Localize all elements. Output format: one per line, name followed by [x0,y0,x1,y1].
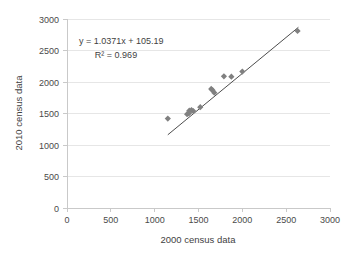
ytick-label-0: 0 [54,204,59,214]
xtick-label-500: 500 [103,215,118,225]
ytick-label-1500: 1500 [39,109,59,119]
y-axis-tick-labels: 0 500 1000 1500 2000 2500 3000 [39,15,59,214]
ytick-label-1000: 1000 [39,141,59,151]
ytick-label-2500: 2500 [39,46,59,56]
data-point [294,28,300,34]
x-axis-title: 2000 census data [160,234,236,245]
data-point [239,69,245,75]
data-point [165,115,171,121]
ytick-label-3000: 3000 [39,15,59,25]
data-point [221,73,227,79]
regression-equation-label: y = 1.0371x + 105.19 [79,36,164,46]
xtick-label-2000: 2000 [232,215,252,225]
r-squared-label: R² = 0.969 [95,50,137,60]
x-axis-tick-labels: 0 500 1000 1500 2000 2500 3000 [64,215,340,225]
chart-canvas: 0 500 1000 1500 2000 2500 3000 0 500 100… [0,0,359,256]
xtick-label-3000: 3000 [320,215,340,225]
y-axis-title: 2010 census data [13,75,24,151]
scatter-chart-figure: 0 500 1000 1500 2000 2500 3000 0 500 100… [0,0,359,256]
trend-line [168,27,299,135]
x-axis-ticks [67,208,330,212]
data-point [228,74,234,80]
regression-annotation: y = 1.0371x + 105.19 R² = 0.969 [79,36,164,60]
xtick-label-0: 0 [64,215,69,225]
trendline-group [168,27,299,135]
xtick-label-2500: 2500 [276,215,296,225]
ytick-label-2000: 2000 [39,78,59,88]
xtick-label-1000: 1000 [145,215,165,225]
ytick-label-500: 500 [44,172,59,182]
y-axis-ticks [63,19,67,208]
xtick-label-1500: 1500 [188,215,208,225]
